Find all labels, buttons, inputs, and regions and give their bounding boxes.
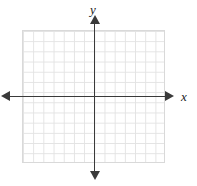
x-axis-right-arrowhead	[165, 91, 174, 101]
x-axis-label: x	[181, 90, 187, 103]
y-axis-label: y	[90, 3, 96, 16]
y-axis-line	[94, 22, 96, 178]
x-axis-line	[8, 96, 172, 98]
y-axis-bottom-arrowhead	[90, 171, 100, 180]
coordinate-plane-figure: x y	[0, 0, 197, 186]
x-axis-left-arrowhead	[1, 91, 10, 101]
